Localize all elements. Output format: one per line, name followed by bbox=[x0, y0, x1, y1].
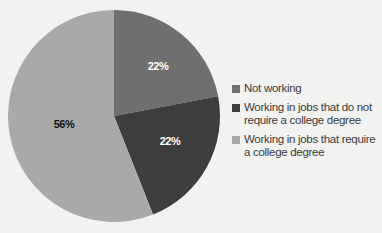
pie-chart: 22%22%56% bbox=[0, 0, 230, 233]
legend-item-not-working: Not working bbox=[232, 82, 382, 95]
legend-swatch bbox=[232, 136, 240, 144]
legend-swatch bbox=[232, 85, 240, 93]
slice-label: 22% bbox=[148, 60, 169, 72]
legend-swatch bbox=[232, 104, 240, 112]
slice-label: 22% bbox=[160, 135, 181, 147]
legend-label: Working in jobs that require a college d… bbox=[244, 133, 382, 159]
slice-label: 56% bbox=[54, 118, 75, 130]
legend-label: Working in jobs that do not require a co… bbox=[244, 101, 382, 127]
legend-item-no-degree-jobs: Working in jobs that do not require a co… bbox=[232, 101, 382, 127]
legend-label: Not working bbox=[244, 82, 301, 95]
legend-item-degree-jobs: Working in jobs that require a college d… bbox=[232, 133, 382, 159]
legend: Not working Working in jobs that do not … bbox=[232, 82, 382, 165]
